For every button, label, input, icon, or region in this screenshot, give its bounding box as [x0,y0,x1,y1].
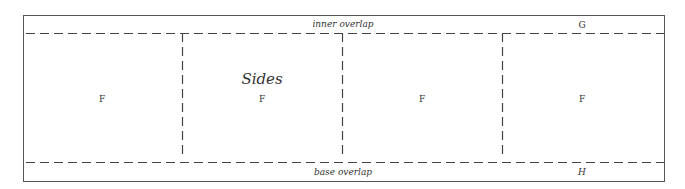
sides-pattern-diagram: inner overlap G Sides F F F F base overl… [0,0,685,189]
marker-g: G [578,21,585,30]
marker-h: H [578,168,586,177]
base-overlap-label: base overlap [314,168,372,177]
diagram-title: Sides [241,72,282,87]
panel-label-1: F [99,95,105,104]
inner-overlap-label: inner overlap [312,20,373,29]
outer-border [24,16,665,182]
panel-label-2: F [259,95,265,104]
panel-label-3: F [419,95,425,104]
panel-label-4: F [579,95,585,104]
